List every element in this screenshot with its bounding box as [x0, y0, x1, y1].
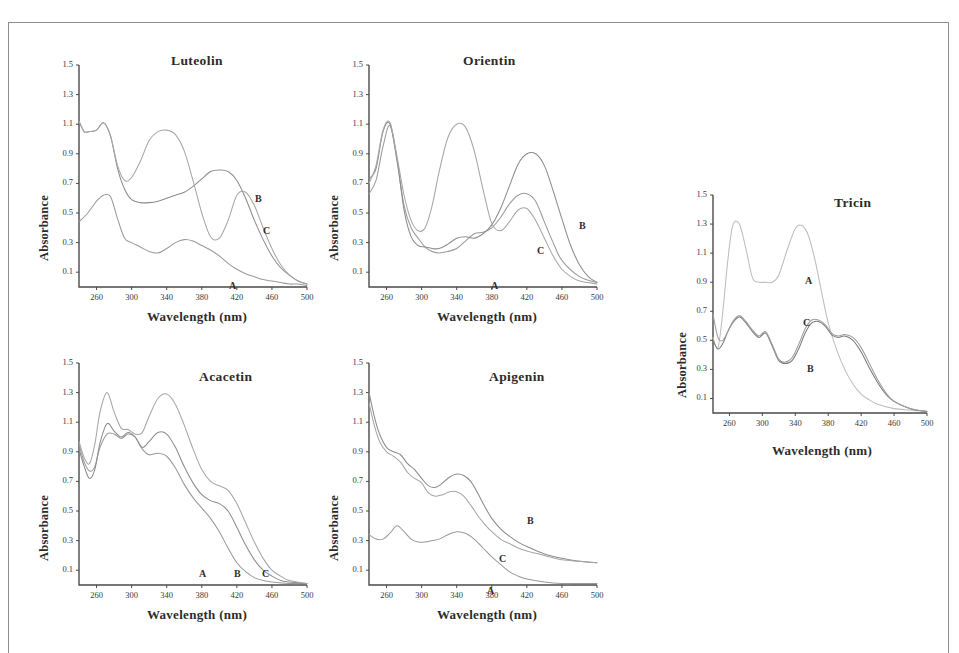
panel-acacetin: Acacetin Absorbance Wavelength (nm) 1.51… [31, 331, 321, 641]
x-tick-label: 420 [223, 292, 251, 302]
y-tick-label: 1.3 [339, 89, 363, 99]
spectra-svg-orientin [321, 43, 627, 327]
curve-label-c: C [499, 553, 506, 564]
x-tick-label: 460 [548, 292, 576, 302]
x-tick-label: 260 [83, 590, 111, 600]
x-tick-label: 300 [118, 292, 146, 302]
y-tick-label: 0.5 [49, 207, 73, 217]
plot-area-acacetin [31, 331, 337, 625]
spectrum-curve-c [369, 403, 597, 563]
y-tick-label: 0.3 [339, 237, 363, 247]
spectra-svg-acacetin [31, 331, 337, 625]
curve-label-c: C [263, 225, 270, 236]
x-tick-label: 500 [913, 418, 941, 428]
curve-label-b: B [807, 363, 814, 374]
spectrum-curve-b [79, 423, 307, 583]
x-axis-label-luteolin: Wavelength (nm) [87, 309, 307, 325]
x-tick-label: 420 [223, 590, 251, 600]
x-tick-label: 420 [513, 292, 541, 302]
y-tick-label: 1.1 [339, 118, 363, 128]
x-axis-label-apigenin: Wavelength (nm) [377, 607, 597, 623]
x-tick-label: 300 [408, 292, 436, 302]
y-tick-label: 0.1 [339, 564, 363, 574]
y-tick-label: 1.1 [339, 416, 363, 426]
x-axis-label-tricin: Wavelength (nm) [717, 443, 927, 459]
x-tick-label: 340 [443, 590, 471, 600]
y-tick-label: 0.5 [49, 505, 73, 515]
curve-label-b: B [527, 515, 534, 526]
y-tick-label: 0.7 [339, 475, 363, 485]
x-tick-label: 500 [583, 590, 611, 600]
x-tick-label: 260 [83, 292, 111, 302]
x-tick-label: 300 [408, 590, 436, 600]
y-tick-label: 0.7 [49, 475, 73, 485]
x-tick-label: 460 [258, 590, 286, 600]
y-tick-label: 1.3 [49, 387, 73, 397]
x-tick-label: 340 [153, 590, 181, 600]
curve-label-a: A [199, 568, 206, 579]
plot-area-tricin [669, 173, 957, 453]
plot-area-luteolin [31, 43, 337, 327]
x-tick-label: 500 [293, 590, 321, 600]
y-tick-label: 0.9 [49, 446, 73, 456]
y-tick-label: 0.7 [683, 305, 707, 315]
curve-label-b: B [255, 193, 262, 204]
y-tick-label: 0.7 [49, 177, 73, 187]
y-tick-label: 0.7 [339, 177, 363, 187]
y-tick-label: 1.3 [339, 387, 363, 397]
spectrum-curve-b [713, 317, 927, 411]
x-tick-label: 340 [153, 292, 181, 302]
axis-lines [79, 363, 307, 585]
x-tick-label: 260 [373, 292, 401, 302]
y-tick-label: 0.9 [339, 446, 363, 456]
y-tick-label: 0.1 [49, 564, 73, 574]
x-tick-label: 460 [880, 418, 908, 428]
panel-tricin: Tricin Absorbance Wavelength (nm) 1.51.3… [669, 173, 947, 473]
curve-label-a: A [487, 585, 494, 596]
spectrum-curve-b [369, 122, 597, 282]
x-tick-label: 380 [188, 292, 216, 302]
curve-label-a: A [491, 280, 498, 291]
y-tick-label: 0.1 [339, 266, 363, 276]
y-tick-label: 0.9 [683, 276, 707, 286]
y-tick-label: 1.5 [49, 357, 73, 367]
curve-label-b: B [234, 568, 241, 579]
spectrum-curve-a [79, 433, 307, 584]
spectra-svg-apigenin [321, 331, 627, 625]
x-tick-label: 380 [814, 418, 842, 428]
y-tick-label: 1.5 [49, 59, 73, 69]
y-tick-label: 0.1 [49, 266, 73, 276]
x-tick-label: 500 [583, 292, 611, 302]
panel-orientin: Orientin Absorbance Wavelength (nm) 1.51… [321, 43, 611, 353]
x-tick-label: 300 [118, 590, 146, 600]
y-tick-label: 1.3 [49, 89, 73, 99]
spectrum-curve-c [79, 393, 307, 584]
y-tick-label: 0.3 [339, 535, 363, 545]
spectra-svg-luteolin [31, 43, 337, 327]
x-tick-label: 460 [548, 590, 576, 600]
x-axis-label-orientin: Wavelength (nm) [377, 309, 597, 325]
x-tick-label: 380 [478, 292, 506, 302]
y-tick-label: 1.3 [683, 218, 707, 228]
x-tick-label: 340 [781, 418, 809, 428]
x-axis-label-acacetin: Wavelength (nm) [87, 607, 307, 623]
spectra-svg-tricin [669, 173, 957, 453]
x-tick-label: 460 [258, 292, 286, 302]
plot-area-apigenin [321, 331, 627, 625]
y-tick-label: 0.3 [49, 535, 73, 545]
curve-label-b: B [579, 220, 586, 231]
axis-lines [369, 363, 597, 585]
y-tick-label: 0.3 [49, 237, 73, 247]
x-tick-label: 380 [188, 590, 216, 600]
x-tick-label: 500 [293, 292, 321, 302]
axis-lines [713, 195, 927, 413]
y-tick-label: 0.3 [683, 363, 707, 373]
x-tick-label: 420 [513, 590, 541, 600]
spectrum-curve-a [369, 526, 597, 584]
x-tick-label: 300 [748, 418, 776, 428]
y-tick-label: 0.5 [339, 207, 363, 217]
panel-apigenin: Apigenin Absorbance Wavelength (nm) 1.51… [321, 331, 611, 641]
spectrum-curve-b [369, 393, 597, 563]
spectrum-curve-a [79, 194, 307, 285]
y-tick-label: 0.9 [339, 148, 363, 158]
